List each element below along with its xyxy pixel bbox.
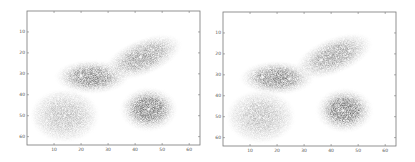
x-tick-label: 10: [51, 147, 57, 152]
x-tick-label: 50: [159, 147, 165, 152]
y-tick-label: 10: [215, 30, 221, 35]
x-tick-label: 20: [78, 147, 84, 152]
centroid-marker: [259, 117, 261, 119]
density-blob: [224, 88, 297, 145]
centroid-marker: [342, 109, 344, 111]
y-tick-label: 30: [215, 72, 221, 77]
x-tick-label: 40: [132, 147, 138, 152]
y-tick-label: 30: [19, 71, 25, 76]
x-tick-label: 10: [247, 148, 253, 153]
centroid-marker: [288, 78, 290, 80]
centroid-marker: [148, 108, 150, 110]
x-tick-label: 30: [105, 147, 111, 152]
x-tick-label: 40: [328, 148, 334, 153]
x-tick-label: 60: [186, 147, 192, 152]
y-tick-label: 50: [19, 113, 25, 118]
y-tick-label: 10: [19, 29, 25, 34]
x-tick-label: 60: [382, 148, 388, 153]
centroid-marker: [64, 115, 66, 117]
density-blob: [314, 87, 375, 134]
y-tick-label: 40: [19, 92, 25, 97]
y-tick-label: 40: [215, 93, 221, 98]
right-density-plot: 102030405060102030405060: [200, 0, 407, 162]
y-tick-label: 60: [19, 134, 25, 139]
centroid-marker: [320, 59, 322, 61]
y-tick-label: 60: [215, 135, 221, 140]
centroid-marker: [348, 50, 350, 52]
y-tick-label: 20: [215, 51, 221, 56]
centroid-marker: [80, 75, 82, 77]
x-tick-label: 20: [274, 148, 280, 153]
y-tick-label: 50: [215, 114, 221, 119]
left-density-plot: 102030405060102030405060: [0, 0, 207, 162]
centroid-marker: [139, 56, 141, 58]
x-tick-label: 50: [355, 148, 361, 153]
y-tick-label: 20: [19, 50, 25, 55]
centroid-marker: [262, 76, 264, 78]
x-tick-label: 30: [301, 148, 307, 153]
